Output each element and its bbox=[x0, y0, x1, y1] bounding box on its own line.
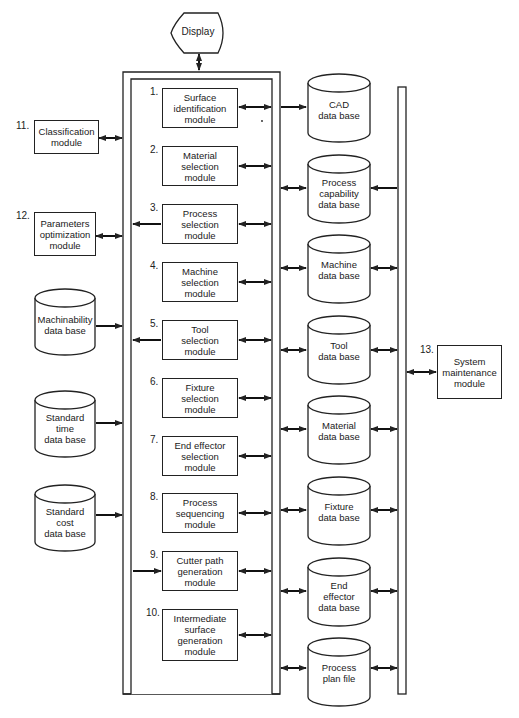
module-number: 7. bbox=[150, 434, 158, 445]
right-bus-bar bbox=[398, 87, 406, 694]
module-number: 2. bbox=[150, 144, 158, 155]
module-end-effector-selection: End effector selection module bbox=[162, 436, 238, 476]
module-system-maintenance: System maintenance module bbox=[437, 345, 502, 399]
module-number: 4. bbox=[150, 260, 158, 271]
module-cutter-path-generation: Cutter path generation module bbox=[162, 551, 238, 591]
module-number: 6. bbox=[150, 376, 158, 387]
module-number: 10. bbox=[146, 607, 160, 618]
database-tool: Tool data base bbox=[307, 315, 371, 385]
module-intermediate-surface-generation: Intermediate surface generation module bbox=[162, 609, 238, 661]
module-number: 12. bbox=[16, 210, 30, 221]
database-process-plan-file: Process plan file bbox=[307, 637, 371, 707]
module-number: 5. bbox=[150, 318, 158, 329]
module-surface-identification: Surface identification module bbox=[162, 88, 238, 128]
display-node: Display bbox=[170, 12, 226, 54]
database-material: Material data base bbox=[307, 395, 371, 465]
module-number: 9. bbox=[150, 549, 158, 560]
module-process-sequencing: Process sequencing module bbox=[162, 493, 238, 533]
database-process-capability: Process capability data base bbox=[307, 154, 371, 224]
module-classification: Classification module bbox=[34, 120, 99, 154]
database-end-effector: End effector data base bbox=[307, 557, 371, 627]
module-number: 13. bbox=[420, 344, 434, 355]
module-number: 3. bbox=[150, 202, 158, 213]
display-label: Display bbox=[170, 26, 226, 37]
database-standard-time: Standard time data base bbox=[34, 390, 96, 458]
module-tool-selection: Tool selection module bbox=[162, 320, 238, 360]
database-machine: Machine data base bbox=[307, 234, 371, 304]
database-machinability: Machinability data base bbox=[34, 288, 96, 356]
database-fixture: Fixture data base bbox=[307, 476, 371, 546]
module-number: 8. bbox=[150, 491, 158, 502]
module-number: 1. bbox=[150, 86, 158, 97]
module-fixture-selection: Fixture selection module bbox=[162, 378, 238, 418]
database-cad: CAD data base bbox=[307, 73, 371, 143]
module-number: 11. bbox=[16, 120, 29, 131]
module-process-selection: Process selection module bbox=[162, 204, 238, 244]
database-standard-cost: Standard cost data base bbox=[34, 484, 96, 552]
module-parameters-optimization: Parameters optimization module bbox=[34, 212, 96, 256]
module-material-selection: Material selection module bbox=[162, 146, 238, 186]
module-machine-selection: Machine selection module bbox=[162, 262, 238, 302]
